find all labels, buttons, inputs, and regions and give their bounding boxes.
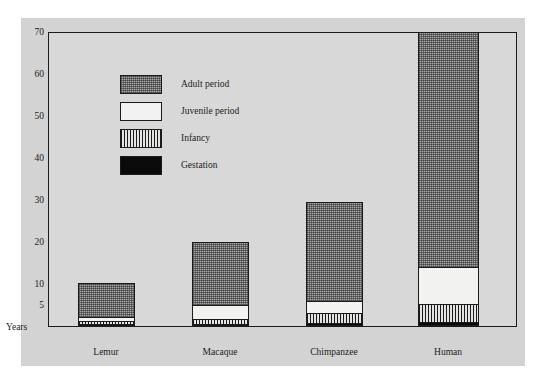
bar-chimpanzee-segment-infancy (306, 313, 363, 323)
y-tick-label-5: 5 (39, 301, 44, 311)
bar-macaque[interactable] (192, 242, 249, 326)
figure: 70 60 50 40 30 20 10 5 Years (0, 0, 539, 384)
legend-label-gestation: Gestation (181, 160, 217, 170)
legend-item-infancy[interactable]: Infancy (120, 126, 239, 150)
x-axis-label-human: Human (434, 347, 462, 357)
bar-chimpanzee-segment-adult (306, 202, 363, 301)
x-axis-label-chimpanzee: Chimpanzee (310, 347, 357, 357)
bar-lemur-segment-gestation (78, 324, 135, 326)
y-tick-label-60: 60 (35, 70, 45, 80)
x-axis-label-macaque: Macaque (203, 347, 238, 357)
bar-lemur-segment-adult (78, 283, 135, 317)
plot-area: Adult period Juvenile period Infancy Ges… (48, 32, 517, 327)
legend-swatch-juvenile-icon (120, 102, 162, 121)
bar-macaque-segment-juvenile (192, 305, 249, 319)
y-tick-label-50: 50 (35, 112, 45, 122)
y-tick-label-10: 10 (35, 280, 45, 290)
legend-item-adult[interactable]: Adult period (120, 72, 239, 96)
bar-human-segment-juvenile (418, 267, 479, 304)
legend-label-adult: Adult period (181, 79, 229, 89)
bar-chimpanzee-segment-juvenile (306, 301, 363, 313)
legend-swatch-adult-icon (120, 75, 162, 94)
y-tick-label-40: 40 (35, 154, 45, 164)
y-tick-label-70: 70 (35, 28, 45, 38)
legend-label-infancy: Infancy (181, 133, 210, 143)
bar-lemur[interactable] (78, 283, 135, 326)
legend-item-juvenile[interactable]: Juvenile period (120, 99, 239, 123)
x-axis-label-lemur: Lemur (93, 347, 118, 357)
bar-human-segment-infancy (418, 304, 479, 322)
bar-human-segment-gestation (418, 322, 479, 326)
legend-label-juvenile: Juvenile period (181, 106, 239, 116)
bar-macaque-segment-adult (192, 242, 249, 305)
bar-macaque-segment-gestation (192, 324, 249, 326)
legend-item-gestation[interactable]: Gestation (120, 153, 239, 177)
legend-swatch-gestation-icon (120, 156, 162, 175)
legend-swatch-infancy-icon (120, 129, 162, 148)
bar-chimpanzee-segment-gestation (306, 323, 363, 326)
bar-human[interactable] (418, 32, 479, 326)
y-axis-title: Years (6, 322, 27, 332)
y-tick-label-20: 20 (35, 238, 45, 248)
legend: Adult period Juvenile period Infancy Ges… (120, 72, 239, 180)
y-tick-label-30: 30 (35, 196, 45, 206)
bar-human-segment-adult (418, 32, 479, 267)
bar-chimpanzee[interactable] (306, 202, 363, 326)
